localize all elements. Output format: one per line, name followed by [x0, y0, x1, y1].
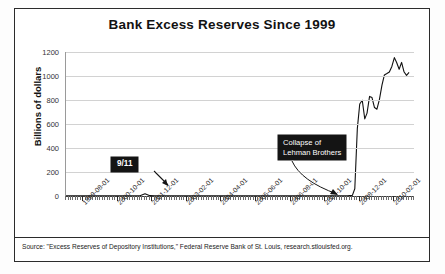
- axis-tick-mark: [181, 196, 182, 200]
- axis-tick-mark: [104, 196, 105, 200]
- axis-tick-mark: [80, 196, 81, 200]
- axis-tick-mark: [77, 196, 78, 200]
- y-axis-tick-label: 0: [25, 192, 59, 201]
- annotation-lehman-collapse: Collapse of Lehman Brothers: [278, 135, 346, 160]
- axis-tick-mark: [307, 196, 308, 200]
- axis-tick-mark: [349, 196, 350, 200]
- axis-tick-mark: [169, 196, 170, 200]
- axis-tick-mark: [141, 196, 142, 200]
- axis-tick-mark: [238, 196, 239, 200]
- axis-tick-mark: [309, 196, 310, 200]
- axis-tick-mark: [314, 196, 315, 200]
- y-axis-tick-label: 1200: [25, 48, 59, 57]
- plot-area-wrapper: Billions of dollars 02004006008001000120…: [15, 39, 431, 235]
- axis-tick-mark: [132, 196, 133, 200]
- axis-tick-mark: [391, 196, 392, 200]
- axis-tick-mark: [216, 196, 217, 200]
- axis-tick-mark: [275, 196, 276, 200]
- axis-tick-mark: [312, 196, 313, 200]
- series-polyline: [66, 58, 409, 196]
- axis-tick-mark: [378, 196, 379, 200]
- axis-tick-mark: [183, 196, 184, 200]
- axis-tick-mark: [253, 196, 254, 200]
- axis-tick-mark: [270, 196, 271, 200]
- y-axis-tick-label: 800: [25, 96, 59, 105]
- axis-tick-mark: [112, 196, 113, 200]
- axis-tick-mark: [75, 196, 76, 200]
- y-axis-tick-label: 600: [25, 120, 59, 129]
- axis-tick-mark: [149, 196, 150, 200]
- axis-tick-mark: [356, 196, 357, 200]
- axis-tick-mark: [408, 196, 409, 200]
- axis-tick-mark: [280, 196, 281, 200]
- axis-tick-mark: [245, 196, 246, 200]
- axis-tick-mark: [97, 196, 98, 200]
- axis-tick-mark: [413, 196, 414, 200]
- source-divider: [15, 237, 429, 238]
- axis-tick-mark: [374, 196, 375, 200]
- axis-tick-mark: [144, 196, 145, 200]
- axis-tick-mark: [383, 196, 384, 200]
- axis-tick-mark: [250, 196, 251, 200]
- axis-tick-mark: [211, 196, 212, 200]
- axis-tick-mark: [304, 196, 305, 200]
- chart-figure: Bank Excess Reserves Since 1999 Billions…: [14, 8, 430, 262]
- annotation-9-11: 9/11: [111, 157, 138, 172]
- axis-tick-mark: [102, 196, 103, 200]
- axis-tick-mark: [208, 196, 209, 200]
- axis-tick-mark: [109, 196, 110, 200]
- axis-tick-mark: [70, 196, 71, 200]
- y-axis-tick-label: 400: [25, 144, 59, 153]
- axis-tick-mark: [107, 196, 108, 200]
- y-axis-tick-label: 200: [25, 168, 59, 177]
- axis-tick-mark: [351, 196, 352, 200]
- axis-tick-mark: [376, 196, 377, 200]
- axis-tick-mark: [248, 196, 249, 200]
- axis-tick-mark: [319, 196, 320, 200]
- axis-tick-mark: [243, 196, 244, 200]
- axis-tick-mark: [166, 196, 167, 200]
- page-title: Bank Excess Reserves Since 1999: [15, 17, 429, 32]
- axis-tick-mark: [146, 196, 147, 200]
- y-axis-ticks: 020040060080010001200: [25, 39, 59, 199]
- axis-tick-mark: [65, 196, 66, 200]
- axis-tick-mark: [139, 196, 140, 200]
- axis-tick-mark: [235, 196, 236, 200]
- gridline: [66, 172, 414, 173]
- source-note: Source: "Excess Reserves of Depository I…: [22, 243, 424, 250]
- axis-tick-mark: [272, 196, 273, 200]
- axis-tick-mark: [179, 196, 180, 200]
- axis-tick-mark: [206, 196, 207, 200]
- x-axis-ticks: 1999-08-012000-10-012001-12-012003-02-01…: [65, 201, 413, 235]
- axis-tick-mark: [134, 196, 135, 200]
- axis-tick-mark: [176, 196, 177, 200]
- axis-tick-mark: [240, 196, 241, 200]
- axis-tick-mark: [339, 196, 340, 200]
- gridline: [66, 100, 414, 101]
- axis-tick-mark: [213, 196, 214, 200]
- y-axis-tick-label: 1000: [25, 72, 59, 81]
- axis-tick-mark: [344, 196, 345, 200]
- axis-tick-mark: [411, 196, 412, 200]
- gridline: [66, 148, 414, 149]
- axis-tick-mark: [72, 196, 73, 200]
- axis-tick-mark: [381, 196, 382, 200]
- axis-tick-mark: [341, 196, 342, 200]
- axis-tick-mark: [277, 196, 278, 200]
- plot-area: [65, 52, 414, 197]
- axis-tick-mark: [285, 196, 286, 200]
- axis-tick-mark: [203, 196, 204, 200]
- gridline: [66, 52, 414, 53]
- gridline: [66, 124, 414, 125]
- axis-tick-mark: [218, 196, 219, 200]
- axis-tick-mark: [388, 196, 389, 200]
- axis-tick-mark: [346, 196, 347, 200]
- gridline: [66, 76, 414, 77]
- axis-tick-mark: [99, 196, 100, 200]
- axis-tick-mark: [114, 196, 115, 200]
- axis-tick-mark: [174, 196, 175, 200]
- axis-tick-mark: [171, 196, 172, 200]
- axis-tick-mark: [322, 196, 323, 200]
- axis-tick-mark: [201, 196, 202, 200]
- axis-tick-mark: [317, 196, 318, 200]
